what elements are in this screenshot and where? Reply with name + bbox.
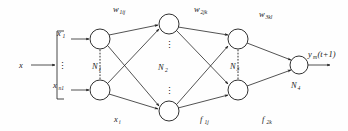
- layer2-vertical-dots-lower: ⋮: [165, 86, 174, 96]
- input-label-xn1-sub: n1: [59, 85, 65, 91]
- weight-label-3-base: w: [259, 9, 265, 19]
- input-label-x1-base: x: [56, 28, 61, 38]
- weight-label-1-base: w: [113, 4, 119, 14]
- layer-2-nodes: ⋮ ⋮ N 2: [157, 14, 179, 121]
- input-components-group: x 1 x n1 ⋮: [52, 28, 89, 91]
- network-svg: x x 1 x n1 ⋮: [0, 0, 348, 131]
- weight-label-1-sub: 1ij: [120, 9, 126, 15]
- layer2-label-sub: 2: [165, 67, 168, 73]
- weight-label-2-base: w: [194, 4, 200, 14]
- layer3-label-sub: 3: [236, 66, 240, 72]
- edge-n2b-n3b: [178, 95, 228, 108]
- output-label-sub: m: [313, 54, 317, 60]
- edge-n3b-n4: [247, 70, 291, 86]
- layer-1-nodes: N 1: [90, 29, 110, 100]
- weight-label-3-sub: 3kl: [265, 14, 273, 20]
- activation-label-f1j-sub: 1j: [205, 119, 210, 125]
- output-label-arg: (t+1): [318, 49, 336, 59]
- activation-label-xi-sub: i: [119, 119, 121, 125]
- edge-n1a-n2b: [108, 46, 159, 106]
- input-vertical-dots: ⋮: [58, 61, 67, 71]
- edge-n3a-n4: [247, 43, 291, 60]
- node-layer4-output: [290, 56, 308, 74]
- node-layer1-bottom: [90, 80, 110, 100]
- weight-labels: w 1ij w 2jk w 3kl: [113, 4, 273, 20]
- layer2-vertical-dots-upper: ⋮: [165, 40, 174, 50]
- layer2-label-base: N: [157, 62, 165, 72]
- activation-label-f1j-base: f: [200, 114, 204, 124]
- edge-n2b-n3a: [177, 46, 228, 104]
- edges-layer2-layer3: [177, 27, 228, 108]
- edge-n2a-n3b: [177, 31, 228, 84]
- node-layer1-top: [90, 29, 110, 49]
- activation-label-xi-base: x: [113, 114, 118, 124]
- input-label-xn1-base: x: [52, 80, 57, 90]
- activation-label-f2k-base: f: [262, 114, 266, 124]
- node-layer3-bottom: [228, 80, 248, 100]
- layer4-label-sub: 4: [298, 85, 301, 91]
- output-group: y m (t+1): [307, 49, 336, 65]
- edge-n2a-n3a: [178, 27, 228, 35]
- layer-3-nodes: N 3: [228, 29, 248, 100]
- layer-4-node: N 4: [290, 56, 308, 91]
- activation-label-f2k-sub: 2k: [267, 119, 273, 125]
- edges-layer1-layer2: [108, 25, 159, 109]
- edge-n1a-n2a: [109, 25, 158, 35]
- neural-network-figure: x x 1 x n1 ⋮: [0, 0, 348, 131]
- input-label-x1-sub: 1: [63, 33, 66, 39]
- layer1-label-sub: 1: [99, 66, 102, 72]
- node-layer3-top: [228, 29, 248, 49]
- edges-layer3-output: [247, 43, 291, 86]
- weight-label-2-sub: 2jk: [201, 9, 208, 15]
- output-label-base: y: [307, 49, 312, 59]
- node-layer2-top: [159, 14, 179, 34]
- edge-n1b-n2a: [108, 29, 159, 83]
- node-layer2-bottom: [159, 101, 179, 121]
- activation-labels: x i f 1j f 2k: [113, 114, 272, 125]
- input-signal-label: x: [18, 60, 23, 70]
